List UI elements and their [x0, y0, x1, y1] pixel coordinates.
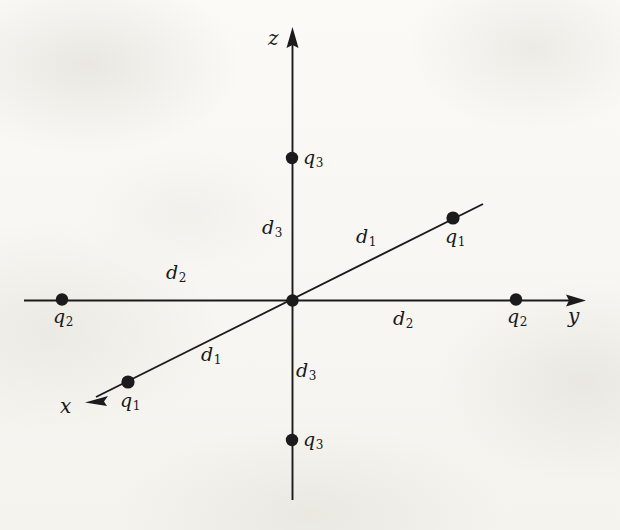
charge-label-q2-negative-y: q2 — [53, 307, 73, 328]
charge-subscript: 1 — [458, 235, 466, 249]
charge-dot-q2-positive-y — [510, 293, 522, 305]
charge-subscript: 3 — [316, 156, 324, 170]
charge-dot-q1-negative-x — [446, 211, 459, 224]
charge-symbol: q — [445, 225, 457, 247]
charge-symbol: q — [303, 146, 315, 168]
charge-label-q1-positive-x: q1 — [120, 391, 140, 412]
charge-dot-q1-positive-x — [121, 375, 134, 388]
z-axis-arrowhead — [287, 27, 299, 48]
charge-subscript: 3 — [316, 438, 324, 452]
charge-subscript: 1 — [133, 399, 141, 413]
charge-dot-q2-negative-y — [56, 293, 68, 305]
distance-symbol: d — [296, 359, 308, 381]
x-axis — [85, 204, 483, 406]
distance-label-d2-right: d2 — [393, 309, 413, 330]
distance-subscript: 2 — [179, 271, 187, 285]
origin-dot — [286, 294, 298, 306]
charge-subscript: 2 — [520, 315, 528, 329]
distance-subscript: 1 — [369, 235, 377, 249]
y-axis — [24, 295, 586, 307]
charge-dot-q3-positive-z — [286, 152, 298, 164]
figure-canvas: x y z q3 q3 q2 q2 q1 q1 d3 d3 d2 d2 d1 d… — [0, 0, 620, 530]
axis-label-y: y — [568, 306, 579, 326]
charge-symbol: q — [53, 305, 65, 327]
charge-symbol: q — [303, 428, 315, 450]
charge-label-q2-positive-y: q2 — [507, 307, 527, 328]
distance-label-d3-lower: d3 — [296, 361, 316, 382]
distance-symbol: d — [201, 343, 213, 365]
charge-label-q3-positive-z: q3 — [303, 148, 323, 169]
charge-label-q3-negative-z: q3 — [303, 430, 323, 451]
z-axis — [287, 27, 299, 500]
distance-symbol: d — [356, 225, 368, 247]
charge-subscript: 2 — [66, 315, 74, 329]
charge-symbol: q — [120, 389, 132, 411]
charge-label-q1-negative-x: q1 — [445, 227, 465, 248]
axis-label-x: x — [60, 396, 71, 416]
distance-label-d3-upper: d3 — [262, 218, 282, 239]
distance-subscript: 2 — [406, 317, 414, 331]
charge-dot-q3-negative-z — [286, 434, 298, 446]
distance-label-d1-lower-left: d1 — [201, 345, 221, 366]
distance-symbol: d — [166, 261, 178, 283]
distance-subscript: 3 — [275, 226, 283, 240]
distance-symbol: d — [262, 216, 274, 238]
distance-subscript: 3 — [309, 369, 317, 383]
distance-symbol: d — [393, 307, 405, 329]
distance-label-d2-left: d2 — [166, 263, 186, 284]
axis-label-z: z — [268, 28, 279, 48]
charge-symbol: q — [507, 305, 519, 327]
distance-subscript: 1 — [214, 353, 222, 367]
distance-label-d1-upper-right: d1 — [356, 227, 376, 248]
